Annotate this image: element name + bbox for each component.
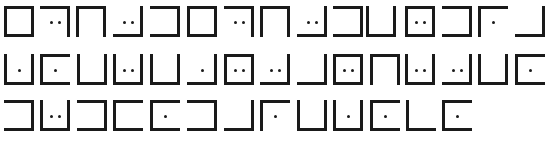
pigpen-glyph-icon [406,100,436,131]
edge-right [287,54,290,85]
edge-top [442,6,472,9]
pigpen-glyph-icon [442,6,472,37]
pigpen-glyph-icon [150,100,180,131]
edge-top [77,100,107,103]
pigpen-glyph-icon [370,54,400,85]
edge-bottom [442,82,472,85]
edge-right [214,54,217,85]
pigpen-glyph-icon [187,100,217,131]
edge-bottom [187,82,217,85]
edge-right [469,54,472,85]
edge-right [251,54,254,85]
edge-right [469,6,472,37]
edge-left [113,100,116,131]
dot-icon [415,21,418,24]
dot-icon [278,69,281,72]
edge-right [360,6,363,37]
pigpen-glyph-icon [333,54,363,85]
edge-top [370,54,400,57]
dot-icon [460,69,463,72]
edge-left [515,54,518,85]
edge-top [333,6,363,9]
edge-left [442,100,445,131]
edge-right [505,54,508,85]
edge-left [405,6,408,37]
dot-icon [456,115,459,118]
edge-top [4,6,34,9]
pigpen-glyph-icon [366,6,396,37]
pigpen-glyph-icon [515,54,545,85]
edge-bottom [40,82,70,85]
edge-bottom [333,82,363,85]
edge-right [432,54,435,85]
pigpen-glyph-icon [187,54,217,85]
edge-right [104,100,107,131]
edge-bottom [370,128,400,131]
edge-top [4,100,34,103]
edge-right [214,6,217,37]
pigpen-glyph-icon [4,100,34,131]
dot-icon [50,21,53,24]
edge-left [76,6,79,37]
edge-right [140,6,143,37]
edge-top [405,6,435,9]
dot-icon [58,115,61,118]
edge-bottom [405,34,435,37]
edge-bottom [406,128,436,131]
pigpen-glyph-icon [4,6,34,37]
edge-top [76,6,106,9]
edge-top [40,6,70,9]
pigpen-glyph-icon [76,6,106,37]
edge-top [260,100,290,103]
pigpen-glyph-icon [77,100,107,131]
edge-left [478,54,481,85]
edge-bottom [333,34,363,37]
edge-bottom [260,82,290,85]
pigpen-glyph-icon [478,6,508,37]
pigpen-glyph-icon [40,100,70,131]
edge-top [150,6,180,9]
edge-left [366,6,369,37]
edge-right [393,6,396,37]
edge-right [432,6,435,37]
pigpen-glyph-icon [260,6,290,37]
edge-top [478,6,508,9]
dot-icon [201,69,204,72]
edge-bottom [478,82,508,85]
dot-icon [242,21,245,24]
edge-bottom [77,82,107,85]
edge-left [260,6,263,37]
edge-left [187,6,190,37]
dot-icon [529,69,532,72]
edge-top [224,54,254,57]
pigpen-glyph-icon [442,54,472,85]
dot-icon [131,21,134,24]
edge-top [515,54,545,57]
edge-bottom [150,34,180,37]
edge-left [40,54,43,85]
pigpen-glyph-icon [260,54,290,85]
pigpen-glyph-icon [442,100,472,131]
edge-top [113,100,143,103]
edge-right [542,6,545,37]
edge-bottom [515,34,545,37]
edge-left [150,54,153,85]
edge-bottom [77,128,107,131]
edge-left [370,54,373,85]
edge-bottom [4,34,34,37]
edge-bottom [113,34,143,37]
dot-icon [315,21,318,24]
dot-icon [347,115,350,118]
pigpen-glyph-icon [405,6,435,37]
pigpen-glyph-icon [224,6,254,37]
pigpen-glyph-icon [260,100,290,131]
edge-bottom [150,128,180,131]
edge-left [406,100,409,131]
dot-icon [18,69,21,72]
pigpen-glyph-icon [150,54,180,85]
edge-right [31,100,34,131]
pigpen-glyph-icon [224,54,254,85]
edge-bottom [224,82,254,85]
edge-bottom [333,128,363,131]
edge-top [333,54,363,57]
